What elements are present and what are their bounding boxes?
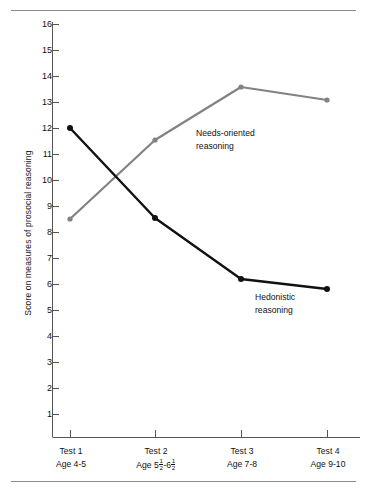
x-tick-label-test-2: Test 2 Age 512-612 <box>110 445 202 471</box>
axis-lines <box>53 22 361 438</box>
annotation-hedonistic-line1: Hedonistic <box>255 291 295 304</box>
x-tick-line1: Test 3 <box>196 445 288 458</box>
annotation-hedonistic-line2: reasoning <box>255 304 295 317</box>
plot-area <box>0 0 373 498</box>
figure-container: Score on measures of prosocial reasoning… <box>0 0 373 498</box>
x-tick-label-test-1: Test 1 Age 4-5 <box>25 445 117 470</box>
data-point <box>152 137 157 142</box>
x-tick-line2: Age 9-10 <box>282 458 373 471</box>
data-point <box>324 286 330 292</box>
data-point <box>67 216 72 221</box>
data-point <box>238 84 243 89</box>
x-tick-marks <box>71 430 328 437</box>
annotation-needs-oriented: Needs-oriented reasoning <box>196 127 255 152</box>
x-tick-line1: Test 1 <box>25 445 117 458</box>
x-tick-line2: Age 512-612 <box>110 458 202 471</box>
annotation-needs-line1: Needs-oriented <box>196 127 255 140</box>
x-tick-label-test-3: Test 3 Age 7-8 <box>196 445 288 470</box>
data-point <box>238 276 244 282</box>
y-tick-marks <box>53 25 60 415</box>
x-tick-label-test-4: Test 4 Age 9-10 <box>282 445 373 470</box>
data-point <box>152 215 158 221</box>
series-needs-oriented <box>67 84 329 221</box>
fraction-one-half: 12 <box>159 458 163 471</box>
x-tick-line2-prefix: Age 5 <box>136 459 158 469</box>
data-point <box>67 125 73 131</box>
annotation-hedonistic: Hedonistic reasoning <box>255 291 295 316</box>
x-tick-line1: Test 2 <box>110 445 202 458</box>
x-tick-line1: Test 4 <box>282 445 373 458</box>
x-tick-line2: Age 7-8 <box>196 458 288 471</box>
x-tick-line2: Age 4-5 <box>25 458 117 471</box>
fraction-one-half: 12 <box>171 458 175 471</box>
data-point <box>324 97 329 102</box>
annotation-needs-line2: reasoning <box>196 140 255 153</box>
